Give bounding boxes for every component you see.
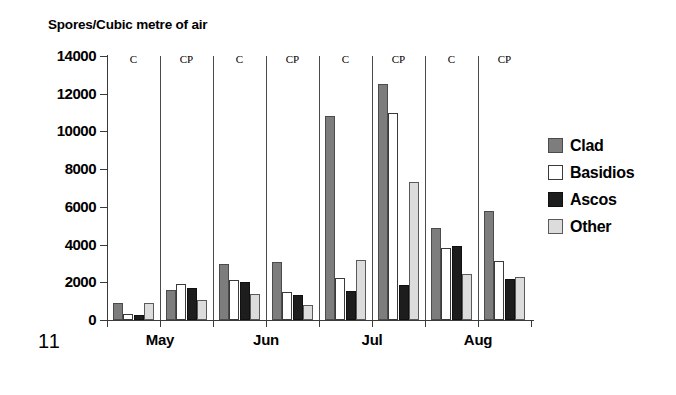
y-tick-label: 4000 [65, 236, 96, 253]
legend-swatch-icon [548, 192, 563, 207]
x-tick-mark [160, 320, 161, 327]
bar [144, 303, 154, 320]
bar [303, 305, 313, 320]
chart-legend: CladBasidiosAscosOther [548, 132, 634, 240]
bar [272, 262, 282, 320]
legend-label: Basidios [570, 164, 634, 182]
bar [494, 261, 504, 320]
month-label-aug: Aug [464, 331, 492, 348]
bar [515, 277, 525, 320]
x-tick-mark [425, 320, 426, 327]
legend-label: Other [570, 218, 611, 236]
bar [431, 228, 441, 320]
spore-count-bar-chart: Spores/Cubic metre of air 14000120001000… [0, 0, 676, 395]
legend-label: Ascos [570, 191, 617, 209]
x-tick-mark [372, 320, 373, 327]
bar [388, 113, 398, 320]
x-tick-mark [319, 320, 320, 327]
bar [356, 260, 366, 320]
bar [441, 248, 451, 320]
y-tick-label: 0 [88, 311, 96, 328]
legend-item: Other [548, 213, 634, 240]
month-label-may: May [146, 331, 174, 348]
legend-item: Ascos [548, 186, 634, 213]
x-tick-mark [213, 320, 214, 327]
bar [113, 303, 123, 320]
month-label-jun: Jun [253, 331, 279, 348]
x-tick-mark [107, 320, 108, 327]
legend-item: Basidios [548, 159, 634, 186]
bar [176, 284, 186, 320]
bar [229, 280, 239, 320]
y-tick-label: 10000 [57, 122, 96, 139]
bar [166, 290, 176, 320]
bar [409, 182, 419, 320]
y-tick-label: 2000 [65, 273, 96, 290]
y-tick-label: 8000 [65, 160, 96, 177]
y-tick-label: 6000 [65, 198, 96, 215]
bar [250, 294, 260, 320]
bar [219, 264, 229, 320]
bar [399, 285, 409, 320]
bar [452, 246, 462, 320]
bars-layer [107, 56, 531, 320]
bar [123, 314, 133, 320]
x-tick-mark [266, 320, 267, 327]
legend-swatch-icon [548, 138, 563, 153]
bar [484, 211, 494, 320]
bar [505, 279, 515, 320]
bar [325, 116, 335, 320]
legend-item: Clad [548, 132, 634, 159]
bar [134, 315, 144, 320]
legend-swatch-icon [548, 165, 563, 180]
bar [240, 282, 250, 320]
month-label-jul: Jul [362, 331, 383, 348]
bar [187, 288, 197, 320]
legend-label: Clad [570, 137, 603, 155]
bar [462, 274, 472, 320]
y-tick-label: 14000 [57, 47, 96, 64]
y-tick-label: 12000 [57, 85, 96, 102]
chart-title: Spores/Cubic metre of air [48, 17, 207, 32]
page-number: 11 [38, 330, 61, 353]
x-tick-mark [531, 320, 532, 327]
bar [293, 295, 303, 320]
legend-swatch-icon [548, 219, 563, 234]
bar [346, 291, 356, 320]
bar [197, 300, 207, 320]
bar [335, 278, 345, 320]
x-axis-line [100, 320, 534, 321]
bar [378, 84, 388, 320]
bar [282, 292, 292, 320]
x-tick-mark [478, 320, 479, 327]
